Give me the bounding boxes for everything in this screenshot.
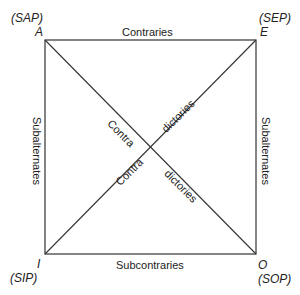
corner-a-form: (SAP) <box>11 12 43 24</box>
corner-o-form: (SOP) <box>258 273 291 285</box>
corner-e-form: (SEP) <box>259 12 291 24</box>
edge-right-label: Subalternates <box>260 117 271 177</box>
corner-i-letter: I <box>37 258 40 270</box>
edge-left-label: Subalternates <box>31 117 42 177</box>
corner-o-letter: O <box>258 259 267 271</box>
corner-e-letter: E <box>260 26 268 38</box>
edge-bottom-label: Subcontraries <box>116 260 184 271</box>
edge-top-label: Contraries <box>122 27 173 38</box>
square-of-opposition-lines <box>0 0 300 295</box>
corner-a-letter: A <box>35 26 43 38</box>
corner-i-form: (SIP) <box>10 272 37 284</box>
